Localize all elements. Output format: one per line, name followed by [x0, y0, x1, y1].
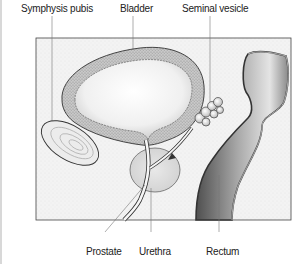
label-bladder: Bladder [120, 3, 153, 15]
label-symphysis-pubis: Symphysis pubis [21, 3, 93, 15]
label-seminal-vesicle: Seminal vesicle [182, 3, 248, 15]
label-prostate: Prostate [86, 246, 122, 258]
label-urethra: Urethra [139, 246, 171, 258]
anatomy-illustration [0, 0, 301, 264]
label-rectum: Rectum [206, 246, 239, 258]
